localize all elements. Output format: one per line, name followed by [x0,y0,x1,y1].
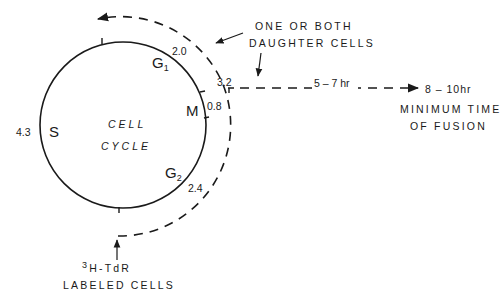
cell-cycle-diagram: CELL CYCLE G1 2.0 M 0.8 G2 2.4 S 4.3 3.2… [0,0,504,303]
fusion-label-line2: OF FUSION [410,120,487,132]
center-title-line1: CELL [108,118,146,130]
fusion-time: 8 – 10hr [425,83,472,95]
marker-tick [228,88,234,93]
phase-g1-label: G1 [152,54,169,73]
phase-g2-duration: 2.4 [188,182,203,194]
daughter-arrow-to-arc [216,33,243,43]
phase-g1-duration: 2.0 [172,45,187,57]
labeled-cells-line1: 3H-TdR [82,260,131,274]
phase-s-label: S [49,123,59,140]
marker-value: 3.2 [217,76,232,88]
daughter-label-line2: DAUGHTER CELLS [249,37,375,49]
phase-m-label: M [186,102,199,119]
interval-label: 5 – 7 hr [314,77,350,89]
phase-s-duration: 4.3 [16,126,31,138]
daughter-arrow-to-line [258,53,261,76]
center-title-line2: CYCLE [101,140,151,152]
daughter-label-line1: ONE OR BOTH [255,20,353,32]
fusion-label-line1: MINIMUM TIME [400,103,501,115]
labeled-cells-line2: LABELED CELLS [63,279,175,291]
phase-g2-label: G2 [165,164,182,183]
phase-m-duration: 0.8 [207,100,222,112]
